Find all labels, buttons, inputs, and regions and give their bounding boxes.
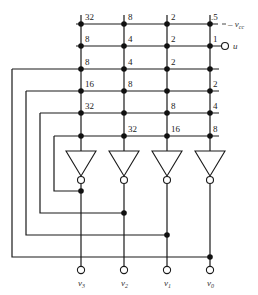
circuit-diagram: – vcc u (0, 0, 258, 295)
u-label: u (233, 41, 238, 51)
weight-r0-c0: 32 (85, 12, 94, 22)
vcc-label: – vcc (227, 19, 244, 30)
output-label-v0: v0 (207, 278, 214, 289)
junction-dots (78, 21, 213, 260)
weight-r2-c1: 4 (128, 57, 133, 67)
output-terminals (77, 266, 213, 273)
weight-r2-c2: 2 (171, 57, 176, 67)
output-label-v3: v3 (78, 278, 85, 289)
output-terminal-v0-icon (206, 266, 213, 273)
weight-r4-c0: 32 (85, 101, 94, 111)
weight-r1-c2: 2 (171, 34, 176, 44)
weight-r5-c3: 8 (213, 124, 218, 134)
weight-r4-c2: 8 (171, 101, 176, 111)
output-labels: v3 v2 v1 v0 (78, 278, 214, 289)
u-input: u (222, 41, 239, 51)
inverting-amplifier-1-icon (152, 151, 182, 184)
output-terminal-v3-icon (77, 266, 84, 273)
weight-r1-c0: 8 (85, 34, 90, 44)
output-label-v2: v2 (121, 278, 128, 289)
weight-r4-c3: 4 (213, 101, 218, 111)
weight-r1-c1: 4 (128, 34, 133, 44)
weight-r1-c3: 1 (213, 34, 218, 44)
row-wires (12, 24, 221, 136)
weight-r2-c0: 8 (85, 57, 90, 67)
weight-r0-c1: 8 (128, 12, 133, 22)
output-terminal-v2-icon (120, 266, 127, 273)
weight-r5-c2: 16 (171, 124, 181, 134)
column-wires (81, 15, 210, 151)
inverting-amplifier-0-icon (195, 151, 225, 184)
output-wires (81, 184, 210, 266)
output-label-v1: v1 (164, 278, 171, 289)
inverting-amplifier-2-icon (109, 151, 139, 184)
weight-r3-c3: 2 (213, 79, 218, 89)
weight-r3-c0: 16 (85, 79, 95, 89)
amplifiers (66, 151, 225, 184)
weight-r0-c3: .5 (211, 12, 218, 22)
vcc-input: – vcc (222, 19, 244, 30)
output-terminal-v1-icon (163, 266, 170, 273)
feedback-wires (12, 69, 210, 257)
inverting-amplifier-3-icon (66, 151, 96, 184)
weight-r3-c1: 8 (128, 79, 133, 89)
weight-r5-c1: 32 (128, 124, 137, 134)
u-terminal-icon (222, 43, 229, 50)
weight-labels: 32 8 2 .5 8 4 2 1 8 4 2 16 8 2 32 8 4 32… (85, 12, 218, 134)
weight-r0-c2: 2 (171, 12, 176, 22)
